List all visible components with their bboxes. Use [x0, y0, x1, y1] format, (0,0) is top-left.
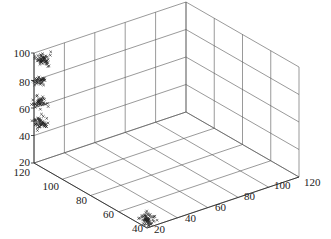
z-tick-40: 40 — [19, 130, 31, 142]
y-tick-80: 80 — [76, 194, 88, 206]
tick-labels: 100 80 60 40 20 120 100 80 60 40 20 40 6… — [14, 47, 322, 235]
y-tick-100: 100 — [43, 180, 60, 192]
x-tick-80: 80 — [244, 190, 256, 202]
y-tick-60: 60 — [103, 208, 115, 220]
z-tick-80: 80 — [19, 76, 31, 88]
x-tick-40: 40 — [185, 212, 197, 224]
x-tick-120: 120 — [304, 176, 321, 188]
x-tick-100: 100 — [274, 179, 291, 191]
scatter-3d-chart: 100 80 60 40 20 120 100 80 60 40 20 40 6… — [0, 0, 331, 239]
grid — [34, 2, 299, 228]
axes — [31, 53, 299, 228]
z-tick-60: 60 — [19, 103, 31, 115]
cluster-5 — [34, 51, 52, 68]
data-points — [30, 51, 158, 228]
y-tick-40: 40 — [132, 222, 144, 234]
z-tick-100: 100 — [14, 47, 31, 59]
cluster-2 — [31, 113, 50, 132]
y-tick-120: 120 — [14, 166, 31, 178]
x-tick-20: 20 — [154, 223, 166, 235]
x-tick-60: 60 — [215, 201, 227, 213]
